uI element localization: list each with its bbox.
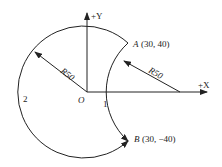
radius-label-big: R50	[58, 65, 77, 83]
arc-diagram: +Y +X O A (30, 40) B (30, −40) R50 R50 1…	[0, 0, 222, 167]
origin-label: O	[78, 95, 85, 105]
point-a-name: A	[132, 39, 139, 49]
point-b-name: B	[134, 134, 140, 144]
x-axis-label: +X	[198, 80, 210, 90]
path-1-label: 1	[103, 99, 108, 109]
y-axis-label: +Y	[91, 11, 103, 21]
point-a-coords: (30, 40)	[141, 39, 170, 49]
path-2-label: 2	[23, 94, 28, 104]
point-b-coords: (30, −40)	[142, 134, 176, 144]
